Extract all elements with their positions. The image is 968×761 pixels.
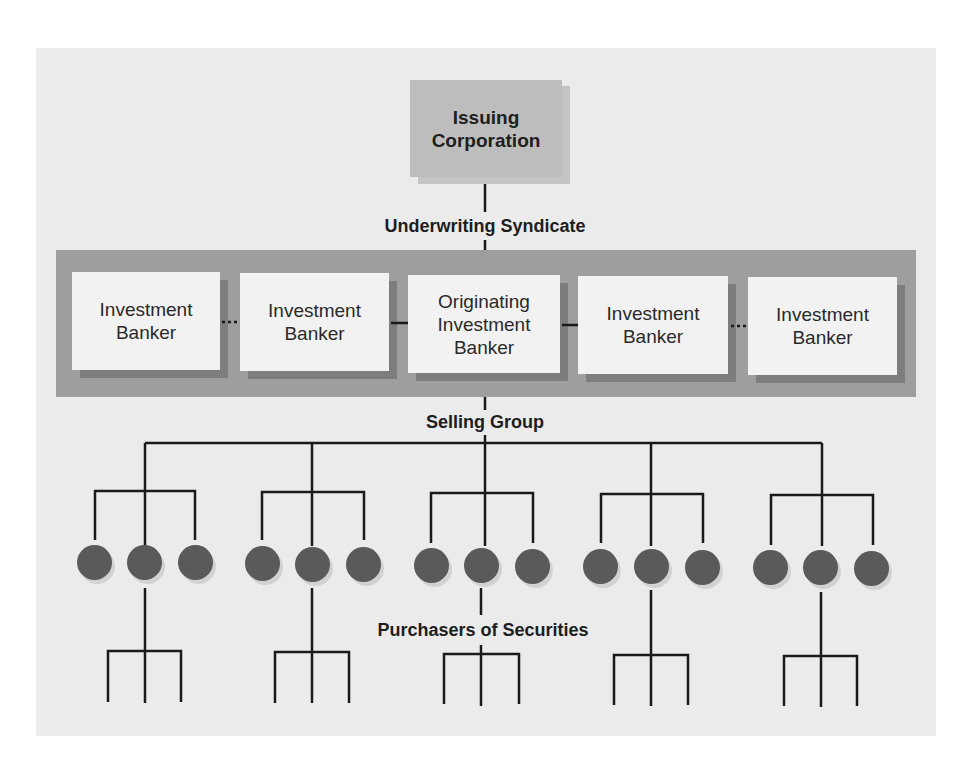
banker-label: Investment xyxy=(607,302,700,325)
dealer-dot xyxy=(127,545,162,580)
dealer-dot xyxy=(414,548,449,583)
dealer-dot xyxy=(753,550,788,585)
selling-group-label: Selling Group xyxy=(424,412,546,433)
dealer-dot xyxy=(245,546,280,581)
dealer-dot xyxy=(77,545,112,580)
banker-label: Banker xyxy=(607,325,700,348)
dealer-dot xyxy=(685,550,720,585)
originating-investment-banker-box: Originating Investment Banker xyxy=(408,275,560,373)
banker-label: Banker xyxy=(776,326,869,349)
syndicate-connectors xyxy=(0,0,968,761)
dealer-dot xyxy=(464,548,499,583)
banker-label: Banker xyxy=(100,321,193,344)
banker-label: Originating xyxy=(438,290,531,313)
dealer-dot xyxy=(515,549,550,584)
banker-label: Banker xyxy=(268,322,361,345)
banker-label: Banker xyxy=(438,336,531,359)
dealer-dot xyxy=(583,549,618,584)
dealer-dot xyxy=(634,549,669,584)
banker-label: Investment xyxy=(100,298,193,321)
purchasers-of-securities-label: Purchasers of Securities xyxy=(375,620,590,641)
investment-banker-box-1: Investment Banker xyxy=(72,272,220,370)
banker-label: Investment xyxy=(268,299,361,322)
dealer-dot xyxy=(178,545,213,580)
dealer-dot xyxy=(854,551,889,586)
banker-label: Investment xyxy=(776,303,869,326)
dealer-dot xyxy=(295,547,330,582)
dealer-dot xyxy=(803,550,838,585)
investment-banker-box-4: Investment Banker xyxy=(578,276,728,374)
banker-label: Investment xyxy=(438,313,531,336)
investment-banker-box-2: Investment Banker xyxy=(240,273,389,371)
dealer-dot xyxy=(346,547,381,582)
investment-banker-box-5: Investment Banker xyxy=(748,277,897,375)
